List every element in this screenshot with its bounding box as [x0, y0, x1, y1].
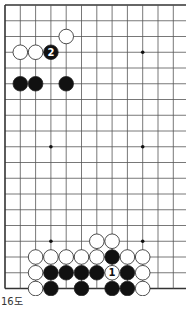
black-stone — [59, 76, 74, 91]
white-stone — [28, 281, 43, 296]
diagram-caption: 16도 — [1, 296, 23, 308]
white-stone — [135, 281, 150, 296]
white-stone — [135, 265, 150, 280]
black-stone — [59, 265, 74, 280]
black-stone — [28, 76, 43, 91]
star-point — [141, 145, 145, 149]
black-stone — [120, 265, 135, 280]
white-stone — [120, 250, 135, 265]
star-point — [141, 50, 145, 54]
black-stone — [105, 281, 120, 296]
black-stone — [90, 265, 105, 280]
white-stone — [28, 265, 43, 280]
move-number: 2 — [47, 47, 54, 58]
black-stone — [44, 281, 59, 296]
black-stone — [120, 281, 135, 296]
star-point — [49, 145, 53, 149]
white-stone — [13, 45, 28, 60]
white-stone — [135, 250, 150, 265]
go-board: 21 — [0, 0, 186, 296]
white-stone — [105, 234, 120, 249]
white-stone — [59, 250, 74, 265]
white-stone — [59, 29, 74, 44]
black-stone — [13, 76, 28, 91]
white-stone — [74, 250, 89, 265]
black-stone — [44, 265, 59, 280]
black-stone — [74, 281, 89, 296]
star-point — [49, 239, 53, 243]
black-stone: 2 — [44, 45, 59, 60]
move-number: 1 — [109, 267, 116, 278]
black-stone — [105, 250, 120, 265]
white-stone — [44, 250, 59, 265]
white-stone — [90, 234, 105, 249]
star-point — [141, 239, 145, 243]
white-stone — [28, 45, 43, 60]
white-stone: 1 — [105, 265, 120, 280]
white-stone — [90, 250, 105, 265]
white-stone — [28, 250, 43, 265]
black-stone — [74, 265, 89, 280]
